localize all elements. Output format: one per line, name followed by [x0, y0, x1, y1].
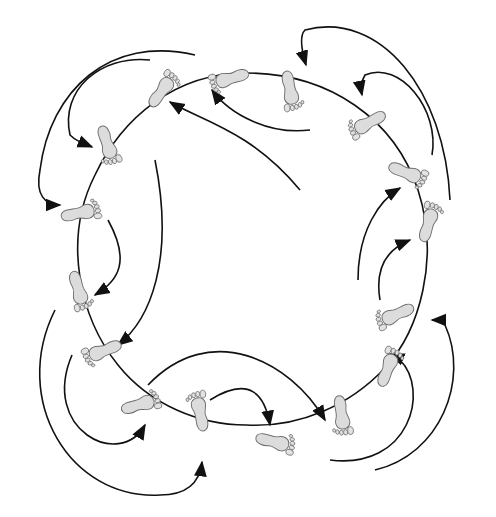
curved-arrow — [118, 160, 162, 345]
footprint-icon — [90, 123, 123, 168]
curved-arrow — [379, 240, 410, 300]
footprint-icon — [278, 69, 305, 112]
footprint-icon — [344, 104, 389, 142]
curved-arrow — [170, 102, 300, 190]
footprint-icon — [118, 388, 162, 418]
footprint-icon — [373, 345, 406, 390]
curved-arrow — [210, 389, 270, 425]
footprint-icon — [80, 336, 125, 369]
curved-arrow — [40, 310, 202, 495]
footprint-icon — [65, 268, 95, 312]
footprint-icon — [415, 200, 445, 244]
footprint-icon — [207, 65, 251, 95]
footprint-loop-diagram — [0, 0, 496, 517]
curved-arrow — [95, 220, 120, 295]
footprint-group — [59, 65, 445, 456]
footprint-icon — [185, 390, 212, 433]
curved-arrow — [65, 355, 145, 444]
footprint-icon — [327, 394, 354, 437]
footprint-icon — [59, 198, 102, 225]
curved-arrow — [361, 72, 433, 155]
footprint-icon — [372, 296, 417, 331]
curved-arrow — [358, 188, 400, 280]
walking-loop — [78, 73, 427, 425]
footprint-icon — [254, 426, 298, 456]
